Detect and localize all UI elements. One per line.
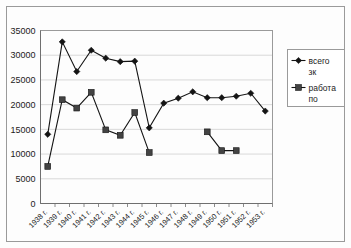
y-axis-tick-labels: 05000100001500020000250003000035000 xyxy=(10,26,35,209)
data-point-marker xyxy=(132,58,138,64)
y-axis-tick-label: 25000 xyxy=(10,75,35,85)
data-point-marker xyxy=(219,95,225,101)
data-point-marker xyxy=(132,110,138,116)
data-point-marker xyxy=(219,148,225,154)
y-axis-tick-label: 0 xyxy=(30,199,35,209)
data-point-marker xyxy=(74,68,80,74)
data-point-marker xyxy=(233,148,239,154)
data-point-marker xyxy=(74,105,80,111)
data-point-marker xyxy=(45,164,51,170)
y-axis-tick-label: 35000 xyxy=(10,26,35,36)
y-axis-tick-label: 20000 xyxy=(10,100,35,110)
data-point-marker xyxy=(146,125,152,131)
y-axis-tick-label: 5000 xyxy=(15,174,35,184)
plot-area-border xyxy=(41,31,273,204)
y-axis-tick-label: 10000 xyxy=(10,149,35,159)
gridlines xyxy=(41,31,273,179)
chart-container: 05000100001500020000250003000035000 1938… xyxy=(0,0,351,248)
data-point-marker xyxy=(59,97,65,103)
chart-legend: всегозкработапо xyxy=(288,50,345,107)
legend-label-line2: зк xyxy=(309,67,317,77)
legend-label-line1: всего xyxy=(309,56,330,66)
data-point-marker xyxy=(175,95,181,101)
data-point-marker xyxy=(204,95,210,101)
data-series xyxy=(45,39,269,170)
data-point-marker xyxy=(59,39,65,45)
data-point-marker xyxy=(204,129,210,135)
data-point-marker xyxy=(45,131,51,137)
series-1 xyxy=(45,39,269,138)
data-point-marker xyxy=(103,127,109,133)
chart-axes xyxy=(41,31,273,204)
data-point-marker xyxy=(146,150,152,156)
x-axis-tick-marks xyxy=(55,204,273,208)
legend-label-line2: по xyxy=(309,94,319,104)
x-axis-tick-labels: 1938 г.1939 г.1940 г.1941 г.1942 г.1943 … xyxy=(27,208,267,230)
data-point-marker xyxy=(190,89,196,95)
data-point-marker xyxy=(117,132,123,138)
legend-sample-marker xyxy=(296,85,302,91)
y-axis-tick-label: 15000 xyxy=(10,125,35,135)
data-point-marker xyxy=(88,89,94,95)
line-chart-plot: 05000100001500020000250003000035000 1938… xyxy=(0,0,351,248)
data-point-marker xyxy=(117,59,123,65)
legend-label-line1: работа xyxy=(309,83,337,93)
data-point-marker xyxy=(161,100,167,106)
data-point-marker xyxy=(103,55,109,61)
y-axis-tick-label: 30000 xyxy=(10,50,35,60)
series-line xyxy=(48,42,266,134)
data-point-marker xyxy=(233,93,239,99)
data-point-marker xyxy=(88,47,94,53)
